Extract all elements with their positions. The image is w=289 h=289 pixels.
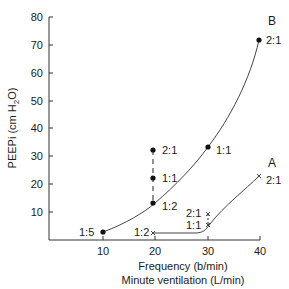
x-tick-labels: 10 20 30 40 xyxy=(97,245,266,257)
annotation-a: A xyxy=(268,156,276,170)
y-tick: 60 xyxy=(31,67,43,79)
x-tick: 20 xyxy=(149,245,161,257)
curve-b xyxy=(103,40,259,232)
y-tick: 30 xyxy=(31,150,43,162)
point-b-dashed-2-1 xyxy=(150,147,155,152)
y-tick-labels: 80 70 60 50 40 30 20 10 xyxy=(31,11,43,218)
y-tick: 40 xyxy=(31,122,43,134)
label-a-dashed-2-1: 2:1 xyxy=(186,207,201,219)
point-b-2-1 xyxy=(256,37,261,42)
x-axis-title-2: Minute ventilation (L/min) xyxy=(122,274,245,286)
label-b-1-2: 1:2 xyxy=(162,200,177,212)
label-a-1-1: 1:1 xyxy=(186,219,201,231)
x-tick: 10 xyxy=(97,245,109,257)
label-a-1-2: 1:2 xyxy=(134,226,149,238)
point-labels: 1:5 1:2 1:1 2:1 1:1 2:1 1:2 1:1 2:1 2:1 xyxy=(79,34,281,238)
y-axis-title: PEEPi (cm H2O) xyxy=(6,88,21,169)
label-b-dashed-1-1: 1:1 xyxy=(162,172,177,184)
x-tick: 30 xyxy=(202,245,214,257)
annotation-b: B xyxy=(268,14,276,28)
y-tick: 70 xyxy=(31,39,43,51)
y-tick: 50 xyxy=(31,95,43,107)
x-axis-title: Frequency (b/min) xyxy=(138,260,227,272)
point-a-end-2-1 xyxy=(257,174,261,178)
x-tick: 40 xyxy=(254,245,266,257)
label-b-1-1: 1:1 xyxy=(216,144,231,156)
point-b-1-1 xyxy=(205,144,210,149)
label-b-1-5: 1:5 xyxy=(79,226,94,238)
label-a-2-1: 2:1 xyxy=(266,174,281,186)
chart: 80 70 60 50 40 30 20 10 10 20 30 40 Freq… xyxy=(0,0,289,289)
y-tick: 80 xyxy=(31,11,43,23)
y-axis xyxy=(49,17,53,240)
curve-b-markers xyxy=(100,37,261,234)
point-b-1-2 xyxy=(150,200,155,205)
y-tick: 10 xyxy=(31,206,43,218)
label-b-2-1: 2:1 xyxy=(266,34,281,46)
point-b-dashed-1-1 xyxy=(150,175,155,180)
label-b-dashed-2-1: 2:1 xyxy=(162,144,177,156)
y-tick: 20 xyxy=(31,178,43,190)
point-b-1-5 xyxy=(100,229,105,234)
